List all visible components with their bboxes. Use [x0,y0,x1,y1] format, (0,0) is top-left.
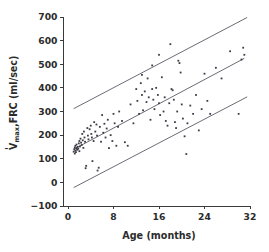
data-point [144,91,146,93]
data-point [121,120,123,122]
data-point [201,108,203,110]
data-point [90,133,92,135]
data-point [78,140,80,142]
y-axis-tick-label: 0 [51,177,57,188]
data-point [167,125,169,127]
data-point [93,140,95,142]
data-point [141,94,143,96]
data-point [87,135,89,137]
data-point [124,141,126,143]
data-point [152,99,154,101]
data-point [115,145,117,147]
x-axis-title: Age (months) [122,230,195,241]
data-point [195,94,197,96]
y-axis-tick-label: 700 [38,11,57,22]
data-point [157,94,159,96]
data-point [158,102,160,104]
data-point [165,120,167,122]
data-point [118,111,120,113]
data-point [100,141,102,143]
data-point [85,167,87,169]
data-point [185,153,187,155]
data-point [96,135,98,137]
data-point [113,113,115,115]
data-point [184,135,186,137]
plot-canvas: −100010020030040050060070008162432 Vmax,… [0,0,269,252]
y-axis-tick-label: −100 [31,200,58,211]
data-point [229,50,231,52]
data-point [151,88,153,90]
data-point [91,137,93,139]
data-point [84,137,86,139]
data-point [169,43,171,45]
y-axis-tick-label: 500 [38,59,57,70]
data-point [159,114,161,116]
data-point [151,65,153,67]
data-point [78,142,80,144]
scatter-plot-figure: −100010020030040050060070008162432 Vmax,… [0,0,269,252]
data-point [99,126,101,128]
y-axis-tick-label: 200 [38,129,57,140]
data-point [78,150,80,152]
data-point [81,144,83,146]
data-point [97,170,99,172]
data-point [175,127,177,129]
y-axis-tick-label: 300 [38,106,57,117]
data-point [107,119,109,121]
x-axis-tick-label: 16 [153,211,166,222]
y-axis-tick-label: 600 [38,35,57,46]
data-point [96,124,98,126]
data-point [206,100,208,102]
data-point [173,99,175,101]
data-point [136,100,138,102]
data-point [104,123,106,125]
data-point [86,127,88,129]
data-point [73,151,75,153]
data-point [141,74,143,76]
data-point [84,141,86,143]
y-axis-tick-label: 100 [38,153,57,164]
data-point [82,147,84,149]
data-point [181,104,183,106]
data-point [155,87,157,89]
data-point [176,111,178,113]
data-point [161,76,163,78]
x-axis-tick-label: 24 [198,211,211,222]
x-axis-tick-label: 0 [65,211,71,222]
data-point [204,73,206,75]
data-point [89,128,91,130]
data-point [85,165,87,167]
data-point [241,59,243,61]
data-point [187,122,189,124]
x-axis-tick-label: 32 [244,211,257,222]
data-point [192,113,194,115]
data-point [209,113,211,115]
data-point [105,137,107,139]
data-point [150,119,152,121]
data-point [221,78,223,80]
data-point [238,113,240,115]
data-point [163,111,165,113]
data-point [80,138,82,140]
y-axis-title-dot-accent: ' [4,147,15,150]
data-point [172,89,174,91]
data-point [90,125,92,127]
data-point [140,82,142,84]
data-point [110,134,112,136]
data-point [147,78,149,80]
data-point [79,146,81,148]
data-point [98,167,100,169]
data-point [117,126,119,128]
data-point [75,151,77,153]
data-point [243,54,245,56]
data-point [114,122,116,124]
data-point [102,132,104,134]
data-point [242,47,244,49]
data-point [108,147,110,149]
y-axis-tick-label: 400 [38,82,57,93]
data-point [94,131,96,133]
data-point [130,104,132,106]
data-point [133,122,135,124]
data-point [135,88,137,90]
data-point [82,139,84,141]
